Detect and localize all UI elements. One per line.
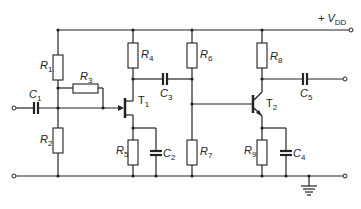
- r6-label: R6: [200, 48, 213, 63]
- resistor-r7: [187, 140, 197, 165]
- r9-label: R9: [244, 144, 257, 159]
- resistor-r3: [73, 84, 98, 93]
- output-terminal: [343, 77, 347, 81]
- t2-label: T2: [266, 97, 278, 112]
- c4-label: C4: [293, 147, 306, 162]
- c2-label: C2: [163, 147, 176, 162]
- circuit-schematic: + VDD C1 R1 R2 R3 T1 R: [0, 0, 361, 209]
- output-ground-terminal: [343, 174, 347, 178]
- t1-label: T1: [138, 94, 150, 109]
- resistor-r2: [53, 128, 63, 153]
- r8-label: R8: [270, 50, 283, 65]
- input-ground-terminal: [12, 174, 16, 178]
- vdd-label: + VDD: [318, 12, 347, 27]
- resistor-r1: [53, 55, 63, 80]
- r3-label: R3: [80, 70, 93, 85]
- resistor-r5: [128, 140, 138, 165]
- resistor-r6: [187, 43, 197, 68]
- r5-label: R5: [116, 144, 129, 159]
- resistor-r4: [128, 43, 138, 68]
- bjt-t2: [253, 92, 262, 116]
- r7-label: R7: [200, 145, 213, 160]
- r4-label: R4: [141, 48, 154, 63]
- resistor-r8: [257, 43, 267, 68]
- r2-label: R2: [40, 133, 53, 148]
- resistor-r9: [257, 140, 267, 165]
- c3-label: C3: [160, 87, 173, 102]
- supply-terminal: [349, 28, 353, 32]
- ground-icon: [301, 176, 317, 195]
- input-terminal: [12, 106, 16, 110]
- r1-label: R1: [40, 59, 53, 74]
- c5-label: C5: [300, 87, 313, 102]
- jfet-t1: [118, 98, 133, 118]
- c1-label: C1: [29, 88, 42, 103]
